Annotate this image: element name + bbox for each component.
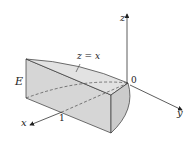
x-axis [30,112,62,125]
x-axis-label: x [21,118,27,128]
y-axis [130,85,182,110]
y-axis-label: y [177,108,183,118]
x-tick-label: 1 [59,114,65,123]
region-label: E [15,76,23,87]
surface-label: z = x [77,52,100,61]
origin-label: 0 [131,76,137,85]
solid-diagram [0,0,192,147]
z-axis-label: z [120,13,125,23]
